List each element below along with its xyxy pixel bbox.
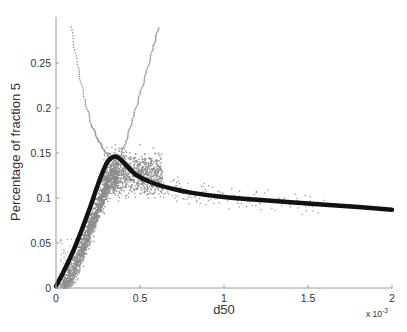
y-ticks: 00.050.10.150.20.25	[31, 57, 59, 294]
y-tick-label: 0.05	[31, 237, 52, 249]
envelope-curves	[70, 26, 159, 160]
y-tick-label: 0.1	[36, 192, 51, 204]
x-multiplier-label: x 10-3	[366, 307, 388, 319]
y-axis-title: Percentage of fraction 5	[8, 83, 23, 221]
y-tick-label: 0.2	[36, 102, 51, 114]
x-axis-title: d50	[213, 302, 235, 317]
y-tick-label: 0.15	[31, 147, 52, 159]
y-tick-label: 0	[45, 282, 51, 294]
y-tick-label: 0.25	[31, 57, 52, 69]
scatter-points	[58, 144, 325, 289]
x-tick-label: 0.5	[133, 292, 148, 304]
chart: 00.050.10.150.20.25 00.511.52 d50 Percen…	[0, 0, 407, 332]
x-tick-label: 2	[389, 292, 395, 304]
x-tick-label: 1.5	[301, 292, 316, 304]
x-tick-label: 0	[53, 292, 59, 304]
